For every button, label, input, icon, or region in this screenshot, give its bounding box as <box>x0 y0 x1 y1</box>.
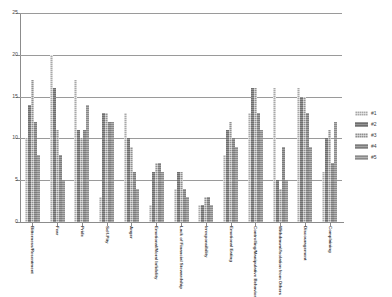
x-tick-label: Discouragement <box>302 226 307 260</box>
legend-item[interactable]: #2 <box>355 119 390 130</box>
legend-label: #4 <box>371 144 377 149</box>
gridline <box>20 138 342 139</box>
legend-item[interactable]: #5 <box>355 152 390 163</box>
bar <box>210 205 213 222</box>
x-tick-label: Emotional/Moral Infidelity <box>154 226 159 279</box>
legend-item[interactable]: #1 <box>355 108 390 119</box>
legend-label: #5 <box>371 155 377 160</box>
x-tick-label: Irresponsibility <box>203 226 208 257</box>
y-tick-label: 20 <box>4 52 18 57</box>
x-tick-label: Bitterness/Resentment <box>30 226 35 274</box>
x-tick-label: Fear <box>55 226 60 235</box>
plot-area <box>20 13 342 222</box>
gridline <box>20 13 342 14</box>
x-tick-label: Anger <box>129 226 134 239</box>
x-tick-label: Self-Pity <box>104 226 109 244</box>
legend-swatch <box>355 155 368 160</box>
x-tick-label: Lack of Financial Stewardship <box>178 226 183 289</box>
x-tick-label: Complaining <box>327 226 332 253</box>
x-tick-label: Controlling/Manipulative Behavior <box>253 226 258 297</box>
legend-label: #2 <box>371 122 377 127</box>
bar <box>235 147 238 222</box>
x-tick-label: Withdrawal/Isolation from Others <box>277 226 282 295</box>
bar <box>334 122 337 222</box>
legend-swatch <box>355 133 368 138</box>
bar <box>260 130 263 222</box>
gridline <box>20 55 342 56</box>
bar <box>285 180 288 222</box>
legend-swatch <box>355 122 368 127</box>
legend-swatch <box>355 111 368 116</box>
chart-legend: #1#2#3#4#5 <box>355 108 390 163</box>
y-tick-label: 0 <box>4 219 18 224</box>
bar <box>37 155 40 222</box>
bar <box>62 180 65 222</box>
gridline <box>20 97 342 98</box>
legend-item[interactable]: #4 <box>355 141 390 152</box>
x-axis-line <box>20 222 344 223</box>
bar <box>86 105 89 222</box>
y-tick-label: 25 <box>4 10 18 15</box>
y-tick-label: 15 <box>4 94 18 99</box>
y-tick-label: 10 <box>4 135 18 140</box>
bar <box>111 122 114 222</box>
bar <box>309 147 312 222</box>
legend-swatch <box>355 144 368 149</box>
x-tick-label: Pride <box>79 226 84 237</box>
bar <box>136 189 139 222</box>
legend-label: #1 <box>371 111 377 116</box>
y-tick-label: 5 <box>4 177 18 182</box>
x-tick-label: Emotional Eating <box>228 226 233 262</box>
legend-item[interactable]: #3 <box>355 130 390 141</box>
bar <box>186 197 189 222</box>
legend-label: #3 <box>371 133 377 138</box>
bar <box>161 172 164 222</box>
